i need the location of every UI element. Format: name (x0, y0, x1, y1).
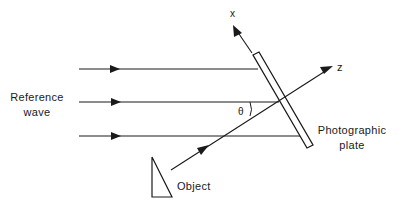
angle-theta-label: θ (238, 107, 244, 117)
x-arrow-icon (233, 25, 242, 37)
plate-label-line2: plate (314, 140, 390, 151)
object-wave-arrow-icon (197, 145, 209, 155)
object-triangle (152, 157, 172, 197)
plate-label-line1: Photographic (314, 125, 390, 136)
z-axis (171, 66, 333, 170)
arrow-icon (111, 98, 121, 106)
hologram-diagram: Reference wave x z θ Photographic plate … (0, 0, 408, 208)
arrow-icon (110, 65, 120, 73)
reference-label-line1: Reference (6, 92, 68, 103)
arrow-icon (111, 132, 121, 140)
angle-arc (250, 102, 252, 116)
reference-label-line2: wave (6, 107, 68, 118)
x-axis-label: x (230, 9, 235, 19)
z-axis-label: z (337, 62, 343, 73)
reference-wave-label: Reference wave (6, 92, 68, 118)
x-axis (233, 25, 252, 53)
photographic-plate-label: Photographic plate (314, 125, 390, 151)
photographic-plate (253, 52, 313, 148)
object-label: Object (177, 181, 211, 192)
